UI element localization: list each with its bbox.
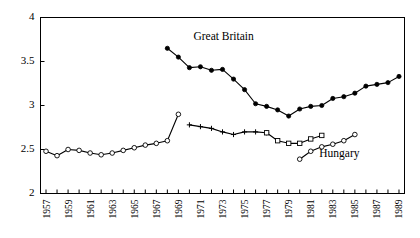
data-point-marker	[253, 129, 258, 134]
x-axis-tick-label: 1975	[240, 199, 250, 218]
data-point-marker	[176, 112, 181, 117]
x-axis-tick-label: 1981	[306, 199, 316, 218]
y-axis-ticks	[41, 18, 45, 194]
data-point-marker	[88, 151, 93, 156]
x-axis-tick-label: 1979	[284, 199, 294, 218]
x-axis-ticks	[46, 190, 399, 194]
data-point-marker	[220, 67, 224, 71]
data-point-marker	[309, 104, 313, 108]
data-point-marker	[110, 151, 115, 156]
data-point-marker	[231, 77, 235, 81]
y-axis-labels: 22.533.54	[21, 10, 35, 198]
data-point-marker	[364, 84, 368, 88]
data-point-marker	[209, 68, 213, 72]
data-point-marker	[55, 153, 60, 158]
data-point-marker	[66, 147, 71, 152]
data-point-marker	[287, 114, 291, 118]
data-point-marker	[297, 157, 302, 162]
data-point-marker	[198, 124, 203, 129]
data-point-marker	[77, 148, 82, 153]
data-point-marker	[386, 81, 390, 85]
series-lines	[46, 48, 399, 159]
data-point-marker	[320, 133, 324, 137]
data-point-marker	[143, 143, 148, 148]
data-point-marker	[342, 138, 347, 143]
x-axis-tick-label: 1973	[218, 199, 228, 218]
y-axis-tick-label: 3	[29, 98, 35, 110]
x-axis-tick-label: 1957	[42, 199, 52, 218]
x-axis-tick-label: 1985	[350, 199, 360, 218]
series-annotation-great-britain: Great Britain	[193, 30, 254, 42]
data-point-marker	[298, 141, 302, 145]
x-axis-tick-label: 1989	[394, 199, 404, 218]
x-axis-tick-label: 1965	[130, 199, 140, 218]
data-point-marker	[264, 131, 268, 135]
x-axis-tick-label: 1963	[108, 199, 118, 218]
y-axis-tick-label: 2.5	[21, 142, 35, 154]
data-point-marker	[99, 152, 104, 157]
y-axis-tick-label: 3.5	[21, 54, 35, 66]
y-axis-tick-label: 4	[29, 10, 35, 22]
data-point-marker	[308, 149, 313, 154]
series-line	[267, 133, 322, 144]
data-point-marker	[353, 91, 357, 95]
data-point-marker	[342, 95, 346, 99]
data-point-marker	[331, 96, 335, 100]
data-point-marker	[298, 107, 302, 111]
data-point-marker	[242, 129, 247, 134]
data-point-marker	[276, 108, 280, 112]
data-point-marker	[132, 145, 137, 150]
data-point-marker	[187, 122, 192, 127]
data-point-marker	[44, 149, 49, 154]
series-markers	[44, 46, 401, 161]
data-point-marker	[375, 82, 379, 86]
y-axis-tick-label: 2	[29, 186, 35, 198]
data-point-marker	[253, 102, 257, 106]
plot-frame	[41, 18, 405, 194]
chart-container: 22.533.54 195719591961196319651967196919…	[0, 0, 420, 238]
data-point-marker	[220, 129, 225, 134]
data-point-marker	[265, 104, 269, 108]
data-point-marker	[231, 132, 236, 137]
data-point-marker	[154, 141, 159, 146]
data-point-marker	[353, 132, 358, 137]
x-axis-tick-label: 1971	[196, 199, 206, 218]
x-axis-tick-label: 1961	[86, 199, 96, 218]
data-point-marker	[275, 139, 279, 143]
data-point-marker	[121, 148, 126, 153]
data-point-marker	[165, 138, 170, 143]
data-point-marker	[209, 126, 214, 131]
x-axis-tick-label: 1983	[328, 199, 338, 218]
series-annotation-hungary: Hungary	[319, 147, 359, 160]
data-point-marker	[286, 141, 290, 145]
data-point-marker	[320, 103, 324, 107]
x-axis-tick-label: 1969	[174, 199, 184, 218]
data-point-marker	[397, 74, 401, 78]
x-axis-tick-label: 1977	[262, 199, 272, 218]
x-axis-labels: 1957195919611963196519671969197119731975…	[42, 199, 405, 218]
data-point-marker	[176, 55, 180, 59]
data-point-marker	[198, 65, 202, 69]
data-point-marker	[242, 88, 246, 92]
line-chart: 22.533.54 195719591961196319651967196919…	[0, 0, 420, 238]
x-axis-tick-label: 1987	[372, 199, 382, 218]
data-point-marker	[309, 137, 313, 141]
series-line	[167, 48, 399, 116]
x-axis-tick-label: 1967	[152, 199, 162, 218]
x-axis-tick-label: 1959	[64, 199, 74, 218]
data-point-marker	[187, 66, 191, 70]
data-point-marker	[165, 46, 169, 50]
